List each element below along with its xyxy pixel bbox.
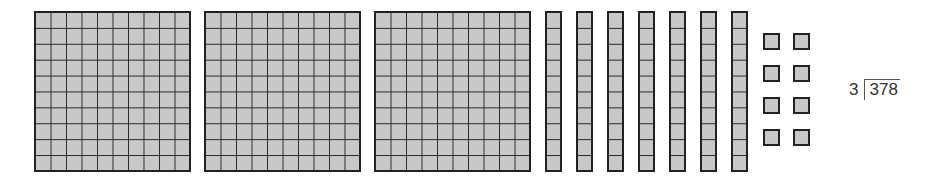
tens-rod-6	[700, 11, 717, 172]
tens-rod-4	[638, 11, 655, 172]
tens-rod-5	[669, 11, 686, 172]
ones-unit-6	[793, 97, 810, 114]
tens-rod-1	[545, 11, 562, 172]
hundreds-flat-2	[204, 11, 361, 172]
dividend: 378	[864, 79, 899, 100]
tens-rod-2	[576, 11, 593, 172]
ones-unit-8	[793, 129, 810, 146]
ones-unit-7	[763, 129, 780, 146]
ones-unit-4	[793, 65, 810, 82]
long-division-problem: 3 378	[849, 79, 900, 100]
tens-rod-7	[731, 11, 748, 172]
divisor: 3	[849, 80, 858, 100]
tens-rod-3	[607, 11, 624, 172]
ones-unit-3	[763, 65, 780, 82]
ones-unit-5	[763, 97, 780, 114]
ones-unit-1	[763, 33, 780, 50]
hundreds-flat-3	[374, 11, 531, 172]
ones-unit-2	[793, 33, 810, 50]
hundreds-flat-1	[34, 11, 191, 172]
